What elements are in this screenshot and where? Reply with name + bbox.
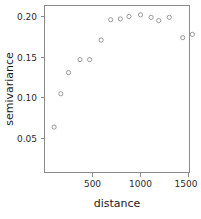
x-axis-label: distance	[94, 197, 141, 210]
y-tick-label: 0.05	[17, 134, 37, 144]
x-axis-tick-labels: 500 1000 1500	[84, 179, 198, 189]
x-tick-label: 1500	[175, 179, 198, 189]
y-tick-label: 0.10	[17, 93, 37, 103]
y-tick-label: 0.15	[17, 53, 37, 63]
y-axis-label: semivariance	[3, 52, 16, 126]
semivariogram-scatter-plot: 0.20 0.15 0.10 0.05 500 1000 1500 distan…	[0, 0, 201, 219]
y-tick-label: 0.20	[17, 12, 37, 22]
x-tick-label: 500	[84, 179, 101, 189]
x-tick-label: 1000	[129, 179, 152, 189]
